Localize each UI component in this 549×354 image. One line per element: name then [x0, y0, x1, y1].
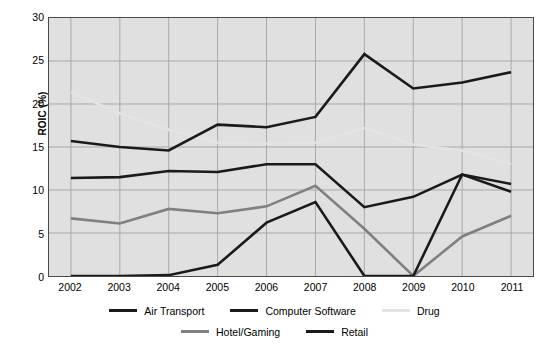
legend-swatch-icon [109, 309, 137, 312]
roic-line-chart: ROIC (%) 051015202530 200220032004200520… [0, 0, 549, 354]
legend-item[interactable]: Computer Software [230, 305, 355, 317]
legend-item[interactable]: Drug [382, 305, 440, 317]
legend-label: Retail [341, 326, 368, 338]
y-tick-label: 25 [4, 54, 44, 66]
x-tick-label: 2011 [482, 281, 542, 293]
series-lines [49, 18, 533, 276]
plot-area [48, 17, 534, 277]
y-tick-label: 5 [4, 228, 44, 240]
series-line [71, 186, 511, 276]
legend-item[interactable]: Air Transport [109, 305, 204, 317]
chart-legend: Air TransportComputer SoftwareDrugHotel/… [0, 300, 549, 342]
legend-row: Hotel/GamingRetail [0, 321, 549, 342]
series-line [71, 175, 511, 276]
legend-label: Hotel/Gaming [216, 326, 280, 338]
y-tick-label: 10 [4, 184, 44, 196]
legend-item[interactable]: Hotel/Gaming [181, 326, 280, 338]
series-line [71, 92, 511, 164]
legend-swatch-icon [230, 309, 258, 312]
x-axis-tick-labels: 2002200320042005200620072008200920102011 [48, 281, 534, 297]
y-tick-label: 15 [4, 141, 44, 153]
legend-swatch-icon [382, 309, 410, 312]
legend-label: Air Transport [144, 305, 204, 317]
legend-swatch-icon [306, 330, 334, 333]
legend-row: Air TransportComputer SoftwareDrug [0, 300, 549, 321]
legend-swatch-icon [181, 330, 209, 333]
legend-label: Drug [417, 305, 440, 317]
y-tick-label: 0 [4, 271, 44, 283]
y-tick-label: 30 [4, 11, 44, 23]
legend-item[interactable]: Retail [306, 326, 368, 338]
series-line [71, 164, 511, 207]
legend-label: Computer Software [265, 305, 355, 317]
series-line [71, 54, 511, 150]
y-tick-label: 20 [4, 98, 44, 110]
